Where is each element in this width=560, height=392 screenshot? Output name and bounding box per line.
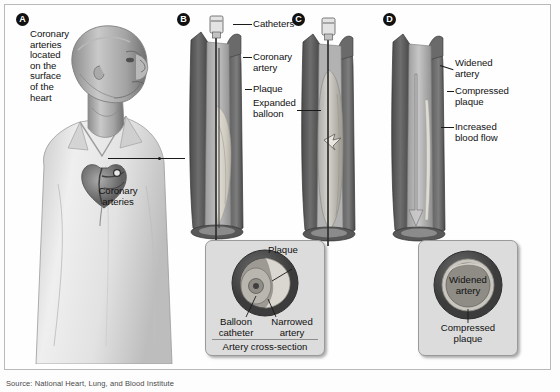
label-widened-artery: Widened artery [455, 58, 493, 79]
panel-badge-a: A [16, 13, 29, 26]
label-compressed-plaque: Compressed plaque [455, 86, 509, 107]
inset-label-plaque: Plaque [268, 245, 320, 256]
inset-cross-section-before: Plaque Balloon catheter Narrowed artery … [205, 240, 325, 356]
vessel-panel-d [387, 14, 463, 246]
leader-line-catheters [233, 24, 252, 25]
vessel-panel-c [297, 14, 373, 246]
leader-line-compressed-plaque [447, 91, 454, 92]
inset-label-compressed-plaque: Compressed plaque [423, 323, 513, 344]
inset-cross-section-after: Widened artery Compressed plaque [418, 240, 518, 356]
leader-line-plaque [245, 89, 252, 90]
label-expanded-balloon: Expanded balloon [253, 98, 296, 119]
leader-line-coronary-artery [243, 57, 252, 58]
figure-source-caption: Source: National Heart, Lung, and Blood … [6, 379, 546, 391]
inset-title-artery-cross-section: Artery cross-section [212, 339, 318, 352]
inset-label-balloon-catheter: Balloon catheter [209, 317, 263, 338]
panel-badge-c: C [292, 13, 305, 26]
panel-badge-b: B [177, 13, 190, 26]
label-plaque: Plaque [253, 84, 283, 95]
label-coronary-artery: Coronary artery [253, 52, 292, 73]
panel-badge-d: D [383, 13, 396, 26]
inset-label-widened-artery: Widened artery [439, 275, 497, 296]
leader-line-expanded-balloon [297, 110, 321, 111]
label-catheters: Catheters [253, 19, 294, 30]
leader-dot-coronary-arteries [158, 157, 161, 160]
figure-root: A Coronary arteries located on the surfa… [0, 0, 560, 392]
leader-line-coronary-arteries [108, 158, 185, 159]
vessel-panel-b [185, 14, 261, 242]
inset-label-narrowed-artery: Narrowed artery [264, 317, 320, 338]
leader-line-increased-blood-flow [441, 127, 454, 128]
label-coronary-arteries-location: Coronary arteries located on the surface… [30, 29, 92, 103]
label-increased-blood-flow: Increased blood flow [455, 122, 498, 143]
label-coronary-arteries-callout: Coronary arteries [86, 186, 150, 207]
